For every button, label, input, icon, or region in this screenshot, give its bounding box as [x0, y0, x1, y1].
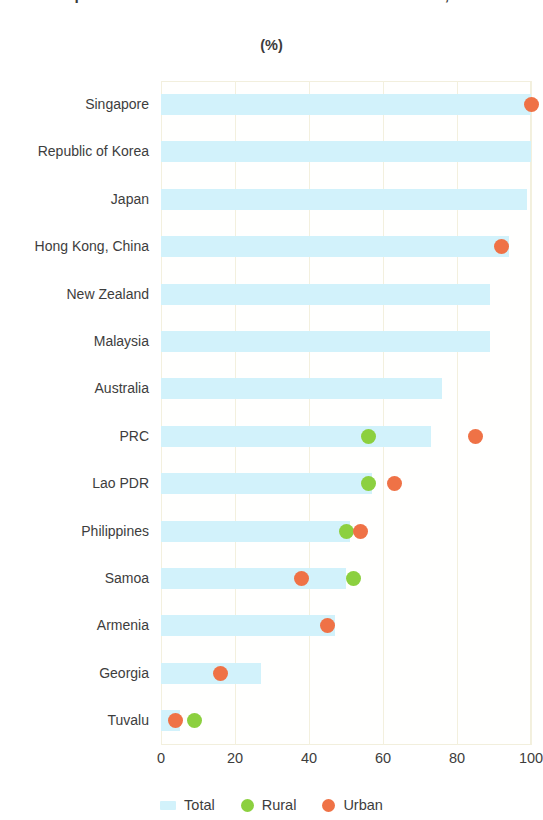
- marker-urban: [294, 571, 309, 586]
- chart-row: Philippines: [161, 508, 531, 555]
- bar-total: [161, 284, 490, 305]
- legend-label-urban: Urban: [343, 796, 383, 814]
- plot-area: SingaporeRepublic of KoreaJapanHong Kong…: [161, 81, 531, 745]
- legend-swatch-urban-icon: [322, 799, 335, 812]
- y-axis-label-georgia: Georgia: [0, 650, 149, 697]
- y-axis-label-republic-of-korea: Republic of Korea: [0, 128, 149, 175]
- chart-row: Armenia: [161, 602, 531, 649]
- chart-legend: TotalRuralUrban: [0, 796, 543, 814]
- x-tick-label-40: 40: [301, 748, 317, 768]
- marker-urban: [353, 524, 368, 539]
- x-tick-label-60: 60: [375, 748, 391, 768]
- legend-swatch-total-icon: [160, 801, 176, 810]
- y-axis-label-prc: PRC: [0, 413, 149, 460]
- legend-item-total[interactable]: Total: [160, 796, 215, 814]
- y-axis-label-hong-kong-china: Hong Kong, China: [0, 223, 149, 270]
- chart-subtitle: (%): [0, 36, 543, 54]
- marker-rural: [361, 429, 376, 444]
- chart-row: Tuvalu: [161, 697, 531, 744]
- marker-rural: [339, 524, 354, 539]
- bar-total: [161, 94, 531, 115]
- x-tick-label-0: 0: [157, 748, 165, 768]
- marker-urban: [524, 97, 539, 112]
- bar-total: [161, 521, 350, 542]
- chart-row: Lao PDR: [161, 460, 531, 507]
- marker-rural: [187, 713, 202, 728]
- chart-title-block: Population with Access to Basic Sanitati…: [0, 0, 543, 4]
- chart-row: PRC: [161, 413, 531, 460]
- marker-urban: [168, 713, 183, 728]
- bar-total: [161, 189, 527, 210]
- legend-label-rural: Rural: [262, 796, 297, 814]
- y-axis-label-new-zealand: New Zealand: [0, 271, 149, 318]
- bar-total: [161, 331, 490, 352]
- gridline-100: [531, 81, 532, 745]
- chart-row: New Zealand: [161, 271, 531, 318]
- x-tick-label-80: 80: [449, 748, 465, 768]
- y-axis-label-philippines: Philippines: [0, 508, 149, 555]
- y-axis-label-singapore: Singapore: [0, 81, 149, 128]
- bar-total: [161, 141, 531, 162]
- bar-total: [161, 378, 442, 399]
- x-axis: 020406080100: [161, 748, 531, 774]
- bar-total: [161, 236, 509, 257]
- legend-label-total: Total: [184, 796, 215, 814]
- chart-row: Japan: [161, 176, 531, 223]
- chart-row: Samoa: [161, 555, 531, 602]
- y-axis-label-japan: Japan: [0, 176, 149, 223]
- sanitation-access-chart: Population with Access to Basic Sanitati…: [0, 0, 543, 820]
- bar-total: [161, 473, 372, 494]
- y-axis-label-malaysia: Malaysia: [0, 318, 149, 365]
- legend-item-rural[interactable]: Rural: [241, 796, 297, 814]
- marker-urban: [213, 666, 228, 681]
- chart-title: Population with Access to Basic Sanitati…: [0, 0, 543, 4]
- chart-row: Singapore: [161, 81, 531, 128]
- y-axis-label-samoa: Samoa: [0, 555, 149, 602]
- y-axis-label-tuvalu: Tuvalu: [0, 697, 149, 744]
- legend-swatch-rural-icon: [241, 799, 254, 812]
- bar-total: [161, 568, 346, 589]
- marker-rural: [346, 571, 361, 586]
- chart-row: Australia: [161, 365, 531, 412]
- y-axis-label-australia: Australia: [0, 365, 149, 412]
- marker-rural: [361, 476, 376, 491]
- y-axis-label-armenia: Armenia: [0, 602, 149, 649]
- x-tick-label-100: 100: [519, 748, 543, 768]
- chart-row: Republic of Korea: [161, 128, 531, 175]
- marker-urban: [387, 476, 402, 491]
- x-tick-label-20: 20: [227, 748, 243, 768]
- legend-item-urban[interactable]: Urban: [322, 796, 383, 814]
- y-axis-label-lao-pdr: Lao PDR: [0, 460, 149, 507]
- chart-row: Malaysia: [161, 318, 531, 365]
- bar-total: [161, 426, 431, 447]
- marker-urban: [468, 429, 483, 444]
- bar-total: [161, 663, 261, 684]
- chart-row: Hong Kong, China: [161, 223, 531, 270]
- marker-urban: [494, 239, 509, 254]
- chart-row: Georgia: [161, 650, 531, 697]
- bar-total: [161, 615, 335, 636]
